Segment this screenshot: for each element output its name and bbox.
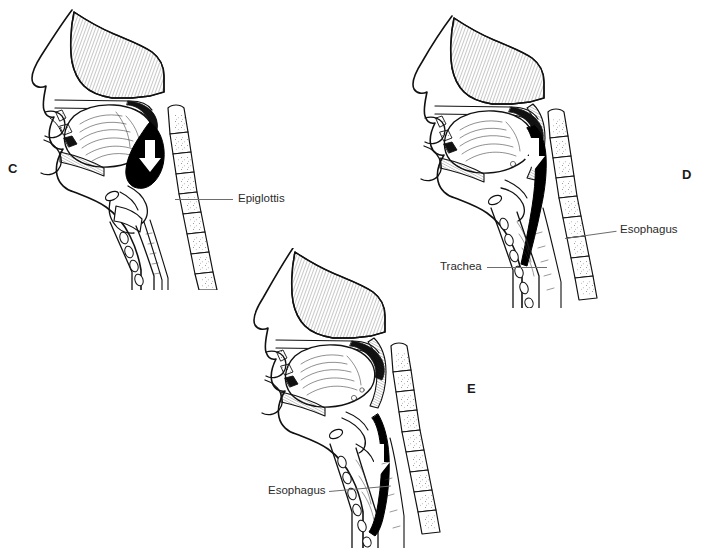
label-epiglottis: Epiglottis bbox=[238, 193, 285, 205]
label-trachea-d: Trachea bbox=[440, 261, 482, 273]
swallowing-stages-figure: C D E Epiglottis Esophagus Trachea Esoph… bbox=[0, 0, 708, 553]
label-esophagus-e: Esophagus bbox=[268, 485, 326, 497]
panel-letter-d: D bbox=[682, 168, 692, 181]
panel-e-illustration bbox=[238, 248, 493, 548]
panel-c-illustration bbox=[0, 0, 250, 290]
panel-letter-c: C bbox=[8, 162, 18, 175]
leader-line-epiglottis bbox=[175, 199, 233, 200]
panel-letter-e: E bbox=[467, 382, 476, 395]
leader-line-trachea-d bbox=[487, 267, 547, 268]
label-esophagus-d: Esophagus bbox=[620, 224, 678, 236]
